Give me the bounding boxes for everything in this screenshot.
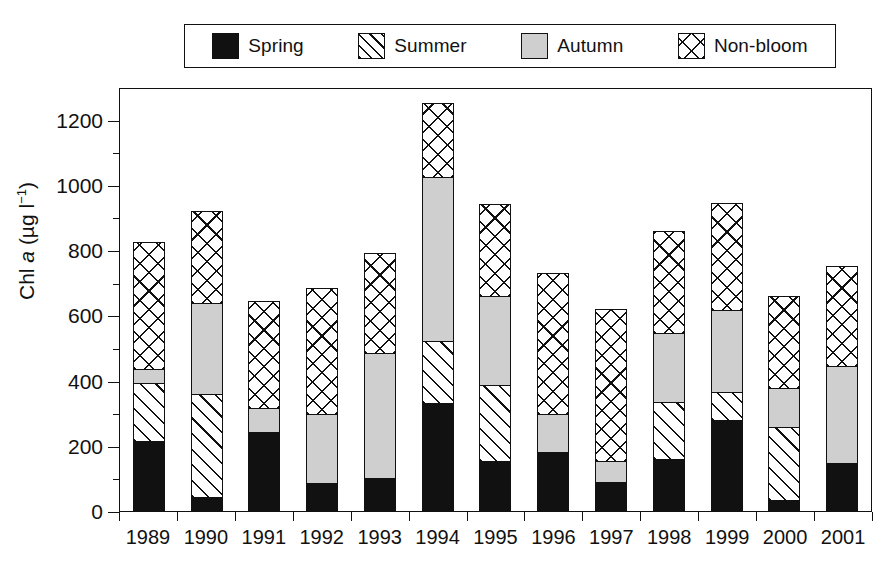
- bar-segment-nonbloom: [653, 231, 685, 334]
- y-tick-major: [108, 251, 119, 252]
- y-tick-major: [108, 186, 119, 187]
- y-tick-major: [108, 512, 119, 513]
- bar-segment-nonbloom: [537, 273, 569, 414]
- bar-segment-nonbloom: [768, 296, 800, 388]
- bar-segment-nonbloom: [133, 242, 165, 369]
- y-tick-major: [108, 121, 119, 122]
- x-tick: [467, 512, 468, 521]
- x-tick-label: 1992: [293, 526, 351, 549]
- x-tick: [582, 512, 583, 521]
- bar-segment-nonbloom: [826, 266, 858, 366]
- bar-segment-summer: [711, 392, 743, 420]
- x-tick-label: 1994: [409, 526, 467, 549]
- bar-segment-spring: [364, 478, 396, 511]
- bar-segment-autumn: [711, 310, 743, 392]
- bar-segment-nonbloom: [191, 211, 223, 303]
- bar-segment-nonbloom: [248, 301, 280, 408]
- bar-segment-summer: [768, 427, 800, 500]
- x-tick: [640, 512, 641, 521]
- x-tick: [524, 512, 525, 521]
- y-tick-major: [108, 382, 119, 383]
- y-tick-label: 600: [68, 304, 103, 328]
- legend-swatch-spring-icon: [212, 33, 239, 59]
- x-tick: [293, 512, 294, 521]
- x-axis: 1989199019911992199319941995199619971998…: [119, 512, 872, 572]
- bar-segment-nonbloom: [479, 204, 511, 295]
- bar-1999[interactable]: [711, 203, 743, 511]
- bar-segment-spring: [306, 483, 338, 511]
- bar-1990[interactable]: [191, 211, 223, 511]
- bar-slot: [640, 89, 698, 511]
- x-tick: [351, 512, 352, 521]
- x-tick-label: 2000: [756, 526, 814, 549]
- legend-label-nonbloom: Non-bloom: [714, 35, 808, 57]
- x-tick: [814, 512, 815, 521]
- bar-segment-summer: [133, 383, 165, 441]
- bar-segment-autumn: [364, 353, 396, 478]
- bar-segment-spring: [537, 452, 569, 511]
- bar-1998[interactable]: [653, 231, 685, 511]
- x-tick-label: 1989: [119, 526, 177, 549]
- y-tick-major: [108, 447, 119, 448]
- x-tick: [872, 512, 873, 521]
- bar-segment-spring: [595, 482, 627, 511]
- legend-item-spring: Spring: [212, 33, 304, 59]
- x-tick: [119, 512, 120, 521]
- bar-1996[interactable]: [537, 273, 569, 511]
- x-tick: [409, 512, 410, 521]
- bar-segment-summer: [653, 402, 685, 459]
- bar-segment-autumn: [479, 296, 511, 386]
- bar-segment-autumn: [422, 177, 454, 342]
- bar-1991[interactable]: [248, 301, 280, 511]
- chart-figure: Spring Summer Autumn Non-bloom 020040060…: [0, 0, 893, 584]
- legend-label-summer: Summer: [394, 35, 466, 57]
- y-tick-label: 200: [68, 435, 103, 459]
- bar-slot: [120, 89, 178, 511]
- bar-segment-spring: [711, 420, 743, 511]
- bar-1992[interactable]: [306, 288, 338, 511]
- legend-item-nonbloom: Non-bloom: [678, 33, 808, 59]
- bar-slot: [524, 89, 582, 511]
- bar-group: [120, 89, 871, 511]
- bar-segment-spring: [248, 432, 280, 511]
- bar-segment-autumn: [248, 408, 280, 432]
- x-tick-label: 1993: [351, 526, 409, 549]
- x-axis-labels: 1989199019911992199319941995199619971998…: [119, 526, 872, 549]
- bar-1989[interactable]: [133, 242, 165, 511]
- bar-slot: [236, 89, 294, 511]
- plot-area: [119, 88, 872, 512]
- x-tick-label: 1996: [524, 526, 582, 549]
- x-tick: [177, 512, 178, 521]
- x-tick-label: 1999: [698, 526, 756, 549]
- y-axis-title: Chl a (µg l−1): [14, 182, 39, 300]
- bar-segment-spring: [133, 441, 165, 511]
- bar-slot: [582, 89, 640, 511]
- bar-1997[interactable]: [595, 309, 627, 511]
- legend-item-summer: Summer: [358, 33, 466, 59]
- y-tick-label: 1200: [56, 109, 103, 133]
- bar-segment-autumn: [595, 461, 627, 482]
- bar-segment-spring: [768, 500, 800, 511]
- x-tick: [756, 512, 757, 521]
- bar-1995[interactable]: [479, 204, 511, 511]
- bar-segment-spring: [422, 403, 454, 511]
- bar-segment-nonbloom: [595, 309, 627, 461]
- bar-slot: [409, 89, 467, 511]
- bar-2001[interactable]: [826, 266, 858, 511]
- x-tick-label: 1998: [640, 526, 698, 549]
- legend-label-autumn: Autumn: [557, 35, 623, 57]
- x-tick: [235, 512, 236, 521]
- x-tick: [698, 512, 699, 521]
- bar-segment-spring: [653, 459, 685, 511]
- y-tick-label: 1000: [56, 174, 103, 198]
- bar-1994[interactable]: [422, 103, 454, 511]
- x-tick-label: 1995: [467, 526, 525, 549]
- bar-segment-autumn: [653, 333, 685, 401]
- bar-1993[interactable]: [364, 253, 396, 511]
- x-tick-label: 2001: [814, 526, 872, 549]
- bar-slot: [467, 89, 525, 511]
- bar-segment-autumn: [133, 369, 165, 383]
- bar-2000[interactable]: [768, 296, 800, 511]
- legend-label-spring: Spring: [248, 35, 304, 57]
- bar-segment-nonbloom: [422, 103, 454, 176]
